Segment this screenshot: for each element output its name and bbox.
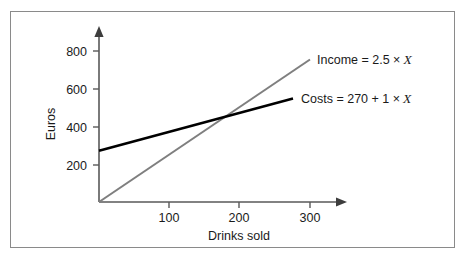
x-axis-arrow-icon	[336, 197, 347, 206]
y-axis	[94, 26, 103, 202]
annotation-costs-prefix: Costs = 270 + 1	[301, 92, 393, 106]
series-line-income	[99, 60, 310, 203]
annotation-costs: Costs = 270 + 1 ×X	[301, 91, 412, 106]
series-line-costs	[99, 98, 293, 150]
x-tick-label-300: 300	[300, 211, 321, 225]
annotation-income: Income = 2.5 ×X	[317, 52, 412, 67]
break-even-line-chart: 800 600 400 200 100 200 300 Drinks sold …	[11, 12, 456, 249]
y-axis-arrow-icon	[94, 26, 103, 37]
y-tick-label-600: 600	[66, 83, 87, 97]
annotation-income-times: ×	[393, 53, 400, 67]
x-tick-label-200: 200	[229, 211, 250, 225]
y-axis-ticks	[93, 51, 99, 165]
y-tick-label-800: 800	[66, 45, 87, 59]
x-axis-ticks	[169, 202, 310, 208]
annotation-costs-variable: X	[402, 91, 412, 106]
annotation-income-prefix: Income = 2.5	[317, 53, 393, 67]
y-axis-title: Euros	[44, 108, 58, 141]
x-axis-title: Drinks sold	[208, 229, 270, 243]
x-tick-label-100: 100	[159, 211, 180, 225]
annotation-costs-times: ×	[393, 92, 400, 106]
y-tick-label-200: 200	[66, 159, 87, 173]
y-tick-label-400: 400	[66, 121, 87, 135]
annotation-income-variable: X	[402, 52, 412, 67]
figure-frame: 800 600 400 200 100 200 300 Drinks sold …	[10, 11, 455, 248]
